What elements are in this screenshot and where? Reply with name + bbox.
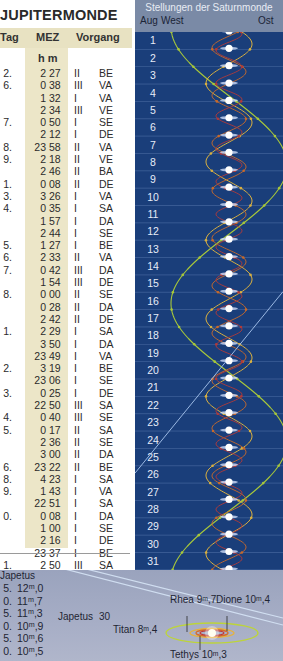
day-label: 10: [147, 191, 159, 203]
minute-cell: 43: [49, 485, 63, 497]
mag-value: 11ᵐ,7: [17, 595, 43, 607]
minute-cell: 12: [49, 128, 63, 140]
minute-cell: 32: [49, 92, 63, 104]
day-label: 24: [147, 434, 159, 446]
day-label: 13: [147, 243, 159, 255]
hour-cell: 23: [28, 374, 46, 386]
hour-cell: 23: [28, 461, 46, 473]
table-row: 2.227IIBE: [0, 67, 132, 79]
hour-cell: 2: [28, 251, 46, 263]
hour-cell: 0: [28, 411, 46, 423]
day-cell: 4.: [0, 411, 12, 423]
minute-cell: 50: [49, 399, 63, 411]
moon-cell: I: [74, 473, 77, 485]
day-label: 8: [150, 156, 156, 168]
day-cell: 6.: [0, 461, 12, 473]
hour-cell: 2: [28, 165, 46, 177]
event-cell: DA: [99, 264, 114, 276]
tethys-label: Tethys 10ᵐ,3: [170, 649, 227, 660]
minute-cell: 25: [49, 387, 63, 399]
event-cell: DA: [99, 448, 114, 460]
table-row: 9.143IVA: [0, 485, 132, 497]
table-row: 6.2322IIBE: [0, 461, 132, 473]
minute-cell: 00: [49, 288, 63, 300]
hour-cell: 1: [28, 239, 46, 251]
minute-cell: 44: [49, 227, 63, 239]
moon-cell: II: [74, 178, 80, 190]
minute-cell: 00: [49, 522, 63, 534]
day-cell: 5.: [0, 424, 12, 436]
moon-cell: I: [74, 202, 77, 214]
moon-cell: III: [74, 411, 83, 423]
table-row: 7.042IIIDA: [0, 264, 132, 276]
event-cell: VE: [99, 104, 113, 116]
mag-value: 10ᵐ,5: [17, 645, 43, 657]
hour-cell: 2: [28, 436, 46, 448]
day-cell: 2.: [0, 362, 12, 374]
mag-value: 10ᵐ,9: [17, 620, 43, 632]
hour-cell: 1: [28, 485, 46, 497]
day-label: 4: [150, 87, 156, 99]
moon-cell: I: [74, 227, 77, 239]
event-cell: VA: [99, 485, 112, 497]
hour-cell: 0: [28, 510, 46, 522]
event-cell: VA: [99, 92, 112, 104]
hour-cell: 0: [28, 288, 46, 300]
table-row: 350IDA: [0, 338, 132, 350]
event-cell: SA: [99, 473, 113, 485]
day-label: 6: [150, 121, 156, 133]
day-cell: 5.: [0, 239, 12, 251]
day-label: 9: [150, 173, 156, 185]
hour-cell: 22: [28, 399, 46, 411]
moon-cell: III: [74, 399, 83, 411]
event-cell: VA: [99, 251, 112, 263]
day-label: 22: [147, 399, 159, 411]
mag-value: 12ᵐ,0: [17, 582, 43, 594]
table-row: 234IIIVE: [0, 104, 132, 116]
table-row: 5.017IISA: [0, 424, 132, 436]
minute-cell: 26: [49, 190, 63, 202]
table-row: 3.025IDE: [0, 387, 132, 399]
moon-cell: I: [74, 374, 77, 386]
event-cell: DE: [99, 276, 114, 288]
day-label: 30: [147, 538, 159, 550]
day-label: 2: [150, 52, 156, 64]
chart-plot-area: 1234567891011121314151617181920212223242…: [135, 32, 283, 570]
event-cell: DA: [99, 215, 114, 227]
chart-title: Stellungen der Saturnmonde: [135, 2, 283, 13]
moon-cell: I: [74, 128, 77, 140]
moon-cell: II: [74, 67, 80, 79]
event-cell: SE: [99, 374, 113, 386]
moon-cell: II: [74, 301, 80, 313]
minute-cell: 29: [49, 325, 63, 337]
day-cell: 6.: [0, 251, 12, 263]
hour-cell: 1: [28, 522, 46, 534]
hour-cell: 3: [28, 448, 46, 460]
event-cell: VA: [99, 350, 112, 362]
event-cell: SA: [99, 325, 113, 337]
table-row: 4.035ISA: [0, 202, 132, 214]
hour-cell: 0: [28, 301, 46, 313]
table-row: 2306ISE: [0, 374, 132, 386]
event-cell: VA: [99, 190, 112, 202]
event-cell: SE: [99, 411, 113, 423]
day-cell: 8.: [0, 473, 12, 485]
hour-cell: 1: [28, 92, 46, 104]
moon-cell: II: [74, 153, 80, 165]
hour-cell: 0: [28, 387, 46, 399]
hour-cell: 2: [28, 534, 46, 546]
table-row: 2349IVA: [0, 350, 132, 362]
table-body: 2.227IIBE6.038IIIVA132IVA234IIIVE7.050IS…: [0, 67, 132, 583]
hour-cell: 2: [28, 153, 46, 165]
day-label: 21: [147, 381, 159, 393]
event-cell: SE: [99, 288, 113, 300]
day-cell: 9.: [0, 153, 12, 165]
event-cell: SE: [99, 522, 113, 534]
event-cell: DA: [99, 301, 114, 313]
moon-cell: III: [74, 104, 83, 116]
hour-cell: 0: [28, 202, 46, 214]
minute-cell: 19: [49, 362, 63, 374]
table-row: 236IISE: [0, 436, 132, 448]
minute-cell: 27: [49, 67, 63, 79]
moon-cell: I: [74, 116, 77, 128]
